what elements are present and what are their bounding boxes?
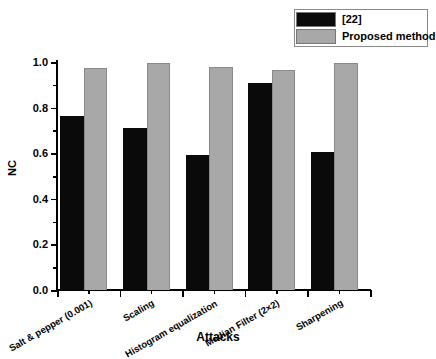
- x-tick-major: [182, 290, 184, 297]
- x-tick-major: [57, 290, 59, 297]
- bar-0: [248, 83, 271, 290]
- legend-label-series-0: [22]: [342, 14, 362, 25]
- bar-group: [182, 62, 245, 290]
- bar-1: [209, 67, 232, 290]
- x-category-label: Sharpening: [294, 297, 345, 333]
- plot-area: 0.00.20.40.60.81.0: [57, 62, 370, 290]
- legend-swatch-series-0: [296, 12, 336, 27]
- y-tick-label: 0.4: [33, 193, 48, 205]
- x-category-label: Salt & pepper (0.001): [7, 297, 94, 354]
- bar-0: [123, 128, 146, 290]
- x-tick-minor: [339, 290, 341, 294]
- bar-1: [272, 70, 295, 290]
- x-tick-major: [245, 290, 247, 297]
- y-axis-title: NC: [6, 160, 18, 176]
- bar-group: [307, 62, 370, 290]
- legend-swatch-series-1: [296, 29, 336, 44]
- x-tick-minor: [88, 290, 90, 294]
- chart-legend: [22] Proposed method: [294, 9, 428, 47]
- bar-0: [60, 116, 83, 290]
- x-tick-major: [120, 290, 122, 297]
- y-tick-label: 0.2: [33, 238, 48, 250]
- x-category-label: Scaling: [121, 297, 156, 323]
- legend-label-series-1: Proposed method: [342, 31, 436, 42]
- bar-group: [245, 62, 308, 290]
- y-tick-label: 1.0: [33, 56, 48, 68]
- x-tick-major: [307, 290, 309, 297]
- bar-group: [57, 62, 120, 290]
- y-tick-label: 0.8: [33, 102, 48, 114]
- bar-group: [120, 62, 183, 290]
- legend-item: [22]: [296, 11, 426, 28]
- bar-1: [84, 68, 107, 290]
- x-tick-minor: [276, 290, 278, 294]
- x-tick-major: [370, 290, 372, 297]
- x-tick-minor: [214, 290, 216, 294]
- bar-series-layer: [57, 62, 370, 290]
- bar-0: [311, 152, 334, 290]
- x-tick-minor: [151, 290, 153, 294]
- bar-1: [334, 63, 357, 290]
- y-tick-label: 0.6: [33, 147, 48, 159]
- bar-0: [186, 155, 209, 290]
- y-tick-label: 0.0: [33, 284, 48, 296]
- bar-1: [147, 63, 170, 290]
- legend-item: Proposed method: [296, 28, 426, 45]
